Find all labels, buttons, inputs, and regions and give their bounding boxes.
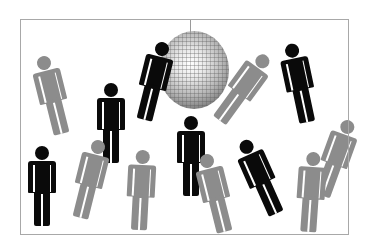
person-figure-icon: [125, 149, 157, 230]
head: [184, 116, 198, 130]
person-figure-icon: [67, 137, 114, 221]
head: [35, 146, 49, 160]
person-figure-icon: [294, 151, 328, 233]
head: [306, 152, 321, 167]
person-figure-icon: [277, 41, 321, 125]
crowd-illustration: [0, 0, 375, 249]
head: [104, 83, 118, 97]
person-figure-icon: [28, 146, 56, 226]
head: [135, 150, 150, 165]
person-figure-icon: [231, 135, 289, 219]
person-figure-icon: [29, 53, 76, 137]
disco-ball-string: [190, 19, 191, 33]
